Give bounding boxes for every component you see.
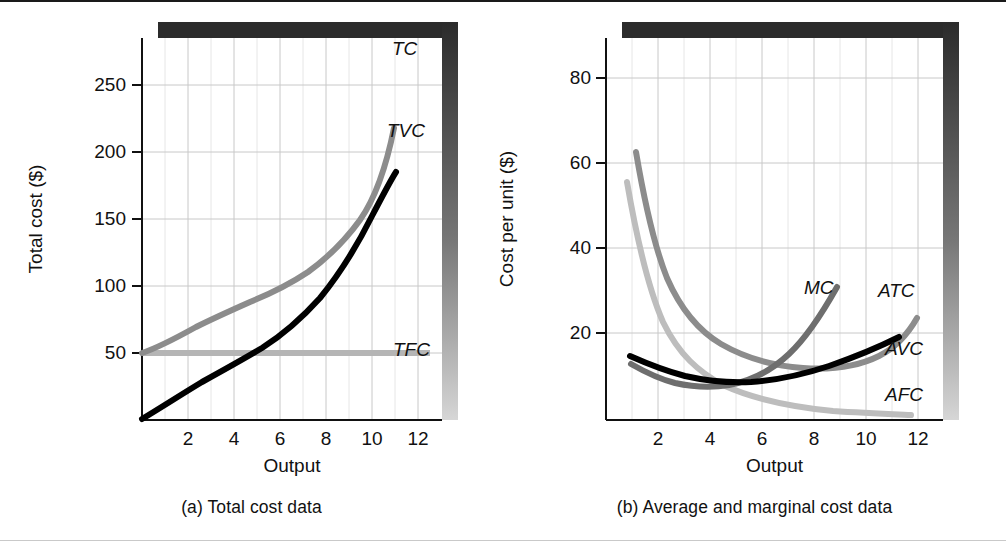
chart-average-marginal-cost: MC ATC AVC AFC 80 60 40 20 Cost per unit… xyxy=(503,0,1006,549)
curve-label-afc: AFC xyxy=(885,384,923,406)
y-tick-label-40-b: 40 xyxy=(527,237,591,259)
y-tick-label-50-a: 50 xyxy=(62,342,126,364)
panel-caption-b: (b) Average and marginal cost data xyxy=(503,497,1006,518)
x-tick-label-6-b: 6 xyxy=(742,428,782,450)
x-axis-title-b: Output xyxy=(606,455,943,477)
x-tick-label-4-a: 4 xyxy=(214,428,254,450)
panel-total-cost: TC TVC TFC 250 200 150 100 50 Total cost… xyxy=(0,0,503,549)
x-tick-label-2-b: 2 xyxy=(638,428,678,450)
shadow-top-b xyxy=(622,22,959,38)
y-axis-title-a: Total cost ($) xyxy=(25,119,47,319)
curve-label-tc: TC xyxy=(392,38,417,60)
y-tick-label-250-a: 250 xyxy=(62,74,126,96)
x-tick-label-12-a: 12 xyxy=(398,428,438,450)
y-tick-label-200-a: 200 xyxy=(62,141,126,163)
shadow-right-a xyxy=(442,22,458,420)
curve-label-avc: AVC xyxy=(885,338,923,360)
panel-average-marginal-cost: MC ATC AVC AFC 80 60 40 20 Cost per unit… xyxy=(503,0,1006,549)
x-tick-label-4-b: 4 xyxy=(690,428,730,450)
curve-label-tfc: TFC xyxy=(393,339,430,361)
y-tick-label-150-a: 150 xyxy=(62,208,126,230)
chart-total-cost: TC TVC TFC 250 200 150 100 50 Total cost… xyxy=(0,0,503,549)
curve-label-tvc: TVC xyxy=(387,120,425,142)
shadow-right-b xyxy=(943,22,959,420)
plot-background-a xyxy=(142,38,442,420)
x-tick-label-2-a: 2 xyxy=(168,428,208,450)
y-ticks-b xyxy=(596,78,606,333)
panel-caption-a: (a) Total cost data xyxy=(0,497,503,518)
y-tick-label-100-a: 100 xyxy=(62,275,126,297)
y-tick-label-80-b: 80 xyxy=(527,67,591,89)
x-tick-label-8-a: 8 xyxy=(306,428,346,450)
curve-label-mc: MC xyxy=(804,277,834,299)
x-tick-label-12-b: 12 xyxy=(898,428,938,450)
x-tick-label-10-a: 10 xyxy=(352,428,392,450)
y-axis-title-b: Cost per unit ($) xyxy=(496,109,518,329)
x-tick-label-10-b: 10 xyxy=(846,428,886,450)
figure-page: TC TVC TFC 250 200 150 100 50 Total cost… xyxy=(0,0,1006,549)
shadow-top-a xyxy=(158,22,458,38)
y-tick-label-20-b: 20 xyxy=(527,322,591,344)
y-ticks-a xyxy=(132,85,142,353)
x-tick-label-8-b: 8 xyxy=(794,428,834,450)
x-axis-title-a: Output xyxy=(142,455,442,477)
x-tick-label-6-a: 6 xyxy=(260,428,300,450)
curve-label-atc: ATC xyxy=(878,280,915,302)
y-tick-label-60-b: 60 xyxy=(527,152,591,174)
